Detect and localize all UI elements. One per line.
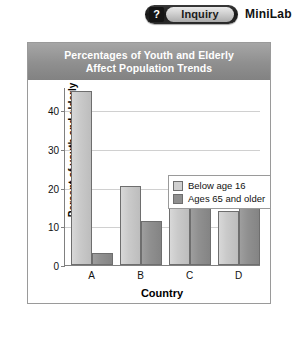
x-axis-tick-label-C: C (186, 270, 193, 281)
bar-B-series-1 (120, 186, 141, 265)
bar-A-series-2 (92, 253, 113, 265)
inquiry-label: Inquiry (166, 7, 234, 22)
y-axis-tick-label: 10 (48, 222, 59, 233)
bar-group (65, 88, 114, 265)
chart-legend: Below age 16Ages 65 and older (168, 175, 271, 209)
bar-group (114, 88, 163, 265)
legend-swatch-2 (173, 194, 183, 204)
x-axis-tick-label-D: D (235, 270, 242, 281)
x-axis-tick-label-B: B (137, 270, 144, 281)
y-axis-tick (61, 266, 65, 267)
chart-title-line-2: Affect Population Trends (86, 62, 213, 75)
legend-item-1: Below age 16 (173, 179, 265, 192)
chart-title-line-1: Percentages of Youth and Elderly (64, 49, 234, 62)
legend-label-1: Below age 16 (188, 180, 246, 191)
bar-B-series-2 (141, 221, 162, 266)
y-axis-tick-label: 0 (53, 261, 59, 272)
inquiry-badge: ? Inquiry (145, 5, 238, 24)
chart-card: Percentages of Youth and Elderly Affect … (27, 42, 271, 304)
y-axis-tick-label: 40 (48, 106, 59, 117)
legend-swatch-1 (173, 181, 183, 191)
bar-A-series-1 (71, 91, 92, 265)
bar-C-series-2 (190, 203, 211, 265)
question-mark-icon: ? (149, 7, 164, 22)
legend-label-2: Ages 65 and older (188, 193, 265, 204)
minilab-label: MiniLab (245, 7, 292, 21)
legend-item-2: Ages 65 and older (173, 192, 265, 205)
y-axis-tick-label: 30 (48, 144, 59, 155)
x-axis-tick-label-A: A (88, 270, 95, 281)
x-axis-title: Country (64, 287, 260, 299)
chart-title: Percentages of Youth and Elderly Affect … (28, 43, 270, 80)
bar-D-series-1 (218, 211, 239, 265)
plot-wrap: Percent of youth and elderly in the tota… (28, 80, 270, 303)
header-row: ? Inquiry MiniLab (0, 3, 298, 27)
y-axis-tick-label: 20 (48, 183, 59, 194)
